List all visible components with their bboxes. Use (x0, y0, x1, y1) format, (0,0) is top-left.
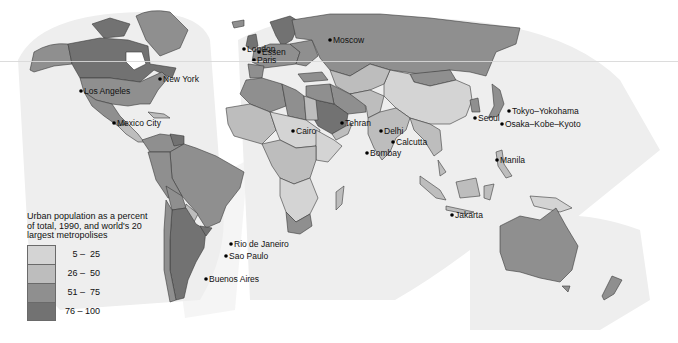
city-marker-icon (229, 242, 233, 246)
city-marker-icon (204, 277, 208, 281)
city-marker-icon (495, 158, 499, 162)
legend-label: 76 – 100 (64, 306, 100, 316)
iberia (248, 64, 264, 78)
city-label: Sao Paulo (229, 252, 268, 261)
city-marker-icon (391, 140, 395, 144)
city-label: Los Angeles (84, 87, 130, 96)
legend-row: 51 – 75 (27, 283, 177, 302)
korea (470, 98, 480, 112)
legend-row: 26 – 50 (27, 264, 177, 283)
city-marker-icon (379, 129, 383, 133)
city-label: Paris (257, 56, 276, 65)
legend-swatch (27, 283, 56, 302)
city-label: Moscow (333, 36, 364, 45)
legend-title: Urban population as a percent of total, … (27, 212, 177, 241)
city-marker-icon (450, 213, 454, 217)
city-label: Tokyo–Yokohama (512, 107, 579, 116)
city-marker-icon (158, 77, 162, 81)
city-label: Rio de Janeiro (234, 240, 289, 249)
legend-row: 5 – 25 (27, 245, 177, 264)
city-marker-icon (507, 109, 511, 113)
legend-label: 51 – 75 (64, 287, 100, 297)
city-marker-icon (291, 129, 295, 133)
legend-title-line: largest metropolises (27, 231, 177, 241)
city-marker-icon (473, 116, 477, 120)
city-label: Tehran (345, 119, 371, 128)
scan-line (0, 61, 678, 62)
legend-swatch (27, 302, 56, 321)
legend-swatch (27, 245, 56, 264)
city-marker-icon (340, 121, 344, 125)
city-label: Bombay (370, 149, 401, 158)
iceland (232, 20, 244, 28)
city-marker-icon (500, 122, 504, 126)
city-marker-icon (365, 151, 369, 155)
city-label: Seoul (478, 114, 500, 123)
legend: Urban population as a percent of total, … (27, 212, 177, 321)
city-marker-icon (112, 121, 116, 125)
city-label: Delhi (384, 127, 403, 136)
legend-row: 76 – 100 (27, 302, 177, 321)
legend-label: 5 – 25 (64, 249, 100, 259)
city-label: New York (163, 75, 199, 84)
city-label: Jakarta (455, 211, 483, 220)
city-label: Mexico City (117, 119, 161, 128)
city-marker-icon (328, 38, 332, 42)
city-marker-icon (79, 89, 83, 93)
legend-swatch (27, 264, 56, 283)
city-label: Cairo (296, 127, 316, 136)
city-label: Manila (500, 156, 525, 165)
city-marker-icon (242, 47, 246, 51)
borneo (456, 178, 480, 198)
legend-label: 26 – 50 (64, 268, 100, 278)
city-label: Calcutta (396, 138, 427, 147)
city-marker-icon (224, 254, 228, 258)
city-label: Buenos Aires (209, 275, 259, 284)
city-label: Osaka–Kobe–Kyoto (505, 120, 581, 129)
